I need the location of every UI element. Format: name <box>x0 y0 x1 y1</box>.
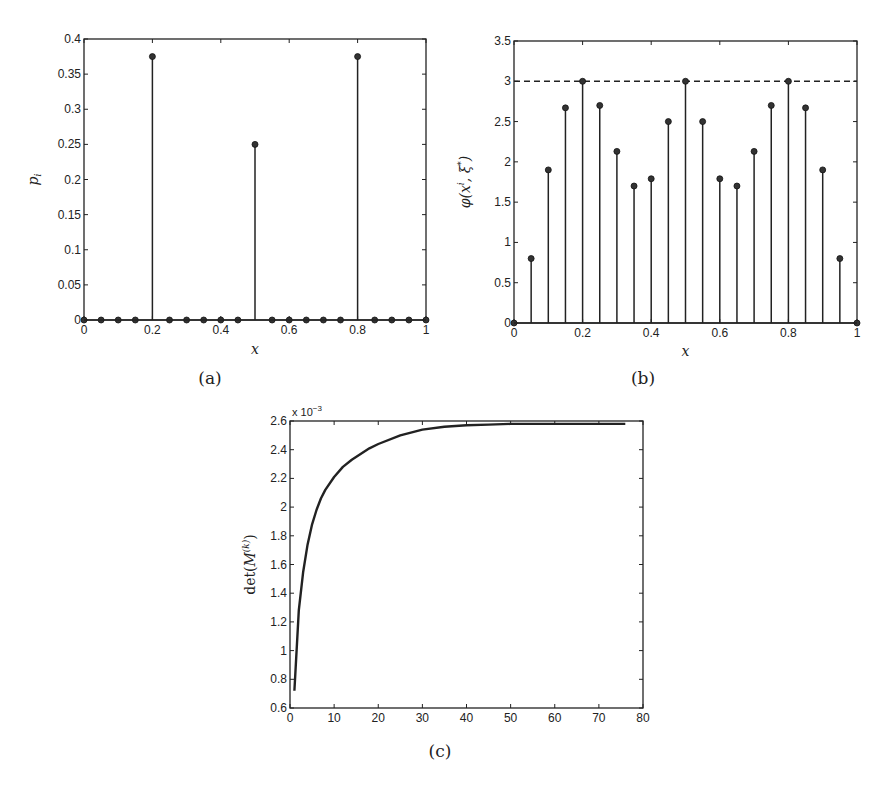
stem-marker <box>734 183 740 189</box>
x-tick-label: 1 <box>423 323 430 337</box>
x-tick-label: 0 <box>287 711 294 725</box>
stem-marker <box>580 78 586 84</box>
plot-frame <box>290 421 643 708</box>
stem-marker <box>614 148 620 154</box>
y-tick-label: 0.1 <box>64 243 81 257</box>
x-axis-ticks: 01020304050607080 <box>287 421 650 725</box>
subfigure-caption: (c) <box>429 741 452 761</box>
x-tick-label: 0.6 <box>281 323 298 337</box>
x-tick-label: 0.2 <box>574 326 591 340</box>
x-tick-label: 0.4 <box>643 326 660 340</box>
x-tick-label: 40 <box>460 711 474 725</box>
y-tick-label: 0 <box>504 316 511 330</box>
stem-marker <box>355 54 361 60</box>
y-tick-label: 0.6 <box>270 701 287 715</box>
y-tick-label: 0.25 <box>58 137 82 151</box>
stem-marker <box>252 141 258 147</box>
stem-marker <box>785 78 791 84</box>
stem-marker <box>803 105 809 111</box>
stem-marker <box>768 102 774 108</box>
stem-marker <box>665 119 671 125</box>
y-tick-label: 0.05 <box>58 278 82 292</box>
data-series <box>81 54 429 323</box>
x-tick-label: 0 <box>511 326 518 340</box>
chart-panel-c: 010203040506070800.60.811.21.41.61.822.2… <box>241 404 650 761</box>
x-tick-label: 60 <box>548 711 562 725</box>
stem-marker <box>149 54 155 60</box>
x-tick-label: 50 <box>504 711 518 725</box>
x-tick-label: 30 <box>416 711 430 725</box>
y-tick-label: 2.5 <box>494 115 511 129</box>
data-series <box>511 78 860 326</box>
y-tick-label: 0.4 <box>64 32 81 46</box>
chart-panel-a: 00.20.40.60.8100.050.10.150.20.250.30.35… <box>25 32 430 388</box>
figure: 00.20.40.60.8100.050.10.150.20.250.30.35… <box>0 0 880 785</box>
y-tick-label: 1.6 <box>270 558 287 572</box>
stem-marker <box>597 102 603 108</box>
x-tick-label: 0.2 <box>144 323 161 337</box>
y-tick-label: 1 <box>280 644 287 658</box>
stem-marker <box>837 256 843 262</box>
stem-marker <box>562 105 568 111</box>
y-tick-label: 2 <box>280 500 287 514</box>
x-tick-label: 0.4 <box>212 323 229 337</box>
y-tick-label: 0.5 <box>494 276 511 290</box>
x-tick-label: 0.8 <box>349 323 366 337</box>
y-tick-label: 0.2 <box>64 173 81 187</box>
y-tick-label: 1.5 <box>494 195 511 209</box>
x-axis-label: x <box>251 341 259 357</box>
subfigure-caption: (b) <box>631 368 655 388</box>
y-axis-ticks: 00.050.10.150.20.250.30.350.4 <box>58 32 426 327</box>
y-tick-label: 0 <box>74 313 81 327</box>
x-axis-label: x <box>682 343 690 359</box>
stem-marker <box>717 176 723 182</box>
subfigure-caption: (a) <box>198 368 221 388</box>
y-tick-label: 3 <box>504 74 511 88</box>
stem-marker <box>631 183 637 189</box>
y-tick-label: 2.4 <box>270 443 287 457</box>
y-axis-label: pi <box>25 173 43 185</box>
x-tick-label: 0.8 <box>780 326 797 340</box>
y-tick-label: 0.3 <box>64 102 81 116</box>
x-tick-label: 10 <box>327 711 341 725</box>
y-tick-label: 1.4 <box>270 586 287 600</box>
y-axis-label: det(M(k)) <box>241 534 258 595</box>
y-tick-label: 0.15 <box>58 208 82 222</box>
stem-marker <box>820 167 826 173</box>
chart-panel-b: 00.20.40.60.8100.511.522.533.5xφ(xi, ξ*)… <box>456 34 861 388</box>
stem-marker <box>528 256 534 262</box>
y-tick-label: 0.35 <box>58 67 82 81</box>
x-tick-label: 0.6 <box>711 326 728 340</box>
stem-marker <box>545 167 551 173</box>
y-axis-label: φ(xi, ξ*) <box>456 156 473 209</box>
x-tick-label: 80 <box>636 711 650 725</box>
y-axis-ticks: 0.60.811.21.41.61.822.22.42.6 <box>270 414 643 715</box>
stem-marker <box>683 78 689 84</box>
x-tick-label: 20 <box>372 711 386 725</box>
y-tick-label: 2 <box>504 155 511 169</box>
y-tick-label: 3.5 <box>494 34 511 48</box>
stem-marker <box>751 148 757 154</box>
y-tick-label: 2.2 <box>270 471 287 485</box>
stem-marker <box>648 176 654 182</box>
data-series <box>294 424 625 691</box>
y-tick-label: 2.6 <box>270 414 287 428</box>
y-tick-label: 1.8 <box>270 529 287 543</box>
x-tick-label: 1 <box>854 326 861 340</box>
x-tick-label: 0 <box>81 323 88 337</box>
y-axis-multiplier: x 10−3 <box>292 404 322 418</box>
y-tick-label: 1 <box>504 235 511 249</box>
line-series <box>294 424 625 691</box>
y-tick-label: 0.8 <box>270 672 287 686</box>
y-tick-label: 1.2 <box>270 615 287 629</box>
x-tick-label: 70 <box>592 711 606 725</box>
stem-marker <box>700 119 706 125</box>
